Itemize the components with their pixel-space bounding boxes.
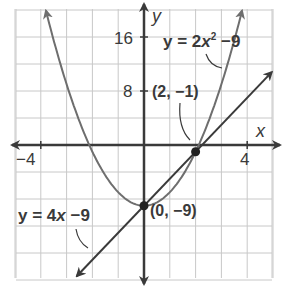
eq-text: y = 4: [18, 206, 56, 225]
parabola-label-leader: [206, 54, 222, 68]
x-axis-label: x: [256, 122, 265, 140]
line-label-leader: [76, 229, 88, 248]
graph-plot: [0, 0, 293, 298]
line-curve: [77, 72, 272, 276]
y-axis-label: y: [152, 7, 161, 25]
eq-text: −9: [66, 206, 90, 225]
y-tick-8: 8: [123, 83, 132, 100]
point-a-leader: [180, 103, 190, 140]
intersection-point: [140, 201, 149, 210]
eq-var: x: [56, 206, 65, 225]
eq-text: y = 2: [163, 32, 201, 51]
intersection-point: [191, 147, 200, 156]
x-tick-neg4: −4: [16, 151, 35, 168]
line-equation-label: y = 4x −9: [18, 207, 90, 224]
point-label-0-neg9: (0, −9): [150, 203, 197, 219]
eq-var: x: [201, 32, 210, 51]
eq-text: −9: [216, 32, 240, 51]
parabola-equation-label: y = 2x2 −9: [163, 33, 240, 50]
x-tick-4: 4: [240, 151, 249, 168]
point-label-2-neg1: (2, −1): [152, 84, 199, 100]
y-tick-16: 16: [114, 30, 133, 47]
